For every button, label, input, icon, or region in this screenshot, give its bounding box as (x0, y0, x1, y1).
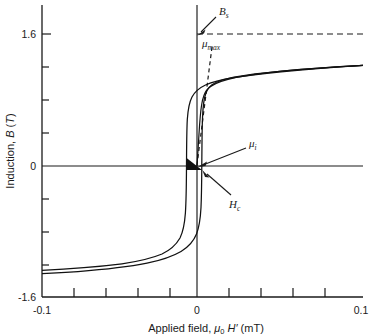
hysteresis-loop-chart: Bs μmax μi Hc 1.6 0 -1.6 -0.1 0 0.1 Indu… (0, 0, 372, 336)
y-tick-label-zero: 0 (30, 160, 36, 172)
y-tick-label-top: 1.6 (21, 28, 36, 40)
x-tick-label-left: -0.1 (33, 304, 51, 316)
chart-figure: Bs μmax μi Hc 1.6 0 -1.6 -0.1 0 0.1 Indu… (0, 0, 372, 336)
x-tick-label-right: 0.1 (354, 304, 369, 316)
y-tick-label-bottom: -1.6 (18, 291, 36, 303)
x-tick-label-zero: 0 (194, 304, 200, 316)
x-axis-title: Applied field, μ0 H′ (mT) (148, 322, 264, 336)
y-axis-title: Induction, B (T) (4, 113, 16, 188)
